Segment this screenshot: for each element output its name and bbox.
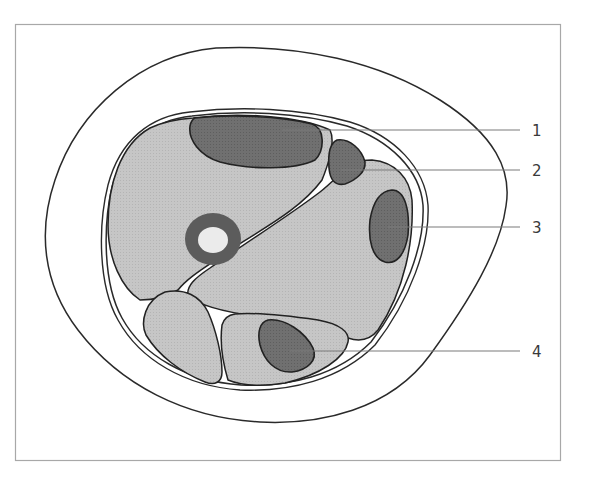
- label-2: 2: [532, 162, 542, 180]
- label-1: 1: [532, 122, 542, 140]
- cross-section-diagram: 1 2 3 4: [0, 0, 591, 494]
- label-4: 4: [532, 343, 542, 361]
- label-3: 3: [532, 219, 542, 237]
- structure-3: [370, 190, 409, 263]
- bone-marrow: [198, 227, 228, 253]
